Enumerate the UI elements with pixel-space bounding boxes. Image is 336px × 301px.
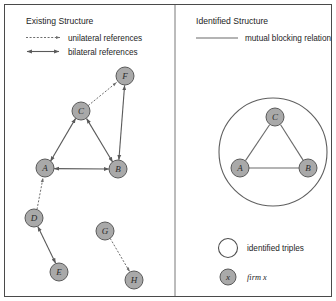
edge-B-C <box>87 119 113 162</box>
edge-D-E <box>38 226 56 263</box>
edge-A-C-mutual <box>246 125 270 161</box>
figure-container: Existing Structure unilateral references… <box>0 0 336 301</box>
node-label: G <box>102 226 109 236</box>
node-label: B <box>115 164 121 174</box>
right-panel-title: Identified Structure <box>196 16 268 26</box>
empty-circle-icon <box>219 239 238 258</box>
legend-firm-x-label: firm x <box>247 273 267 282</box>
right-graph-node-A: A <box>231 159 249 177</box>
left-panel-title: Existing Structure <box>26 16 94 26</box>
edge-A-C <box>51 118 76 161</box>
legend-identified-triples-label: identified triples <box>247 244 304 253</box>
legend-mutual-label: mutual blocking relation <box>245 34 331 43</box>
legend-firm-x: x firm x <box>220 269 267 285</box>
node-label: E <box>55 267 62 277</box>
right-graph-node-B: B <box>299 159 317 177</box>
node-label: C <box>272 112 279 122</box>
gray-node-icon-label: x <box>225 272 230 282</box>
node-label: F <box>121 71 128 81</box>
left-graph-node-G: G <box>96 222 114 240</box>
edge-C-to-F <box>88 83 116 106</box>
left-graph-node-F: F <box>116 67 134 85</box>
left-graph-node-D: D <box>25 209 43 227</box>
legend-unilateral-references: unilateral references <box>26 34 142 43</box>
edge-C-B-mutual <box>281 125 304 161</box>
legend-bilateral-references: bilateral references <box>27 48 138 57</box>
right-graph-node-C: C <box>266 108 284 126</box>
legend-unilateral-label: unilateral references <box>68 34 142 43</box>
right-graph-edges <box>246 125 304 168</box>
node-label: A <box>236 163 243 173</box>
node-label: C <box>78 106 85 116</box>
left-graph-node-A: A <box>36 159 54 177</box>
edge-D-to-A <box>37 178 43 209</box>
left-graph-node-C: C <box>72 102 90 120</box>
node-label: D <box>30 213 38 223</box>
edge-G-to-H <box>110 238 129 271</box>
node-label: H <box>130 275 138 285</box>
node-label: B <box>305 163 311 173</box>
legend-mutual-blocking-relation: mutual blocking relation <box>196 34 331 43</box>
legend-bilateral-label: bilateral references <box>68 48 138 57</box>
node-label: A <box>41 163 48 173</box>
left-graph-node-E: E <box>50 263 68 281</box>
edge-B-F <box>119 85 125 159</box>
legend-identified-triples: identified triples <box>219 239 304 258</box>
left-graph-node-H: H <box>125 271 143 289</box>
left-graph-node-B: B <box>109 160 127 178</box>
diagram-canvas: Existing Structure unilateral references… <box>0 0 336 301</box>
